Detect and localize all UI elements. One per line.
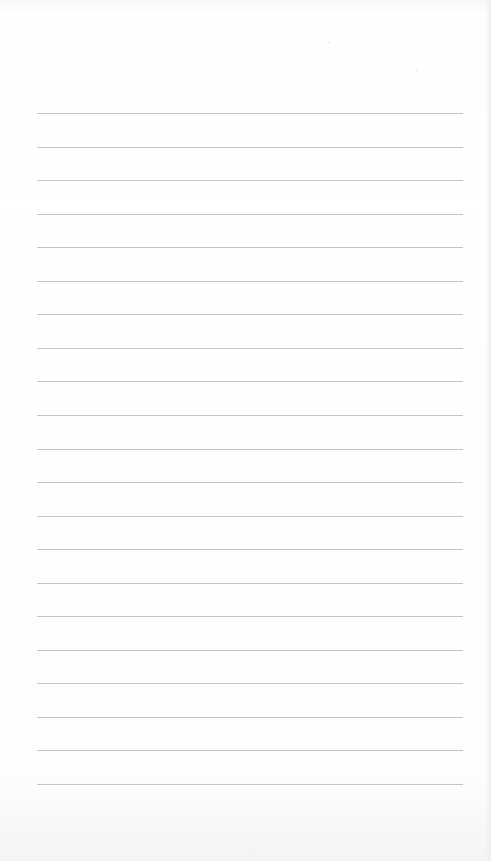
ruled-line [37,381,463,382]
ruled-line [37,750,463,751]
paper-edge-shadow [485,0,491,861]
ruled-line [37,348,463,349]
ruled-line [37,549,463,550]
ruled-line [37,717,463,718]
ruled-line [37,147,463,148]
ruled-line [37,281,463,282]
ruled-line [37,482,463,483]
ruled-line [37,784,463,785]
ruled-line [37,180,463,181]
ruled-line [37,616,463,617]
ruled-line [37,247,463,248]
paper-speck [416,70,417,71]
ruled-line [37,415,463,416]
ruled-line [37,314,463,315]
ruled-line [37,516,463,517]
ruled-line [37,449,463,450]
ruled-line [37,583,463,584]
ruled-line [37,113,463,114]
ruled-line [37,214,463,215]
lined-paper-sheet [0,0,491,861]
ruled-line [37,683,463,684]
paper-speck [328,42,329,43]
ruled-line [37,650,463,651]
